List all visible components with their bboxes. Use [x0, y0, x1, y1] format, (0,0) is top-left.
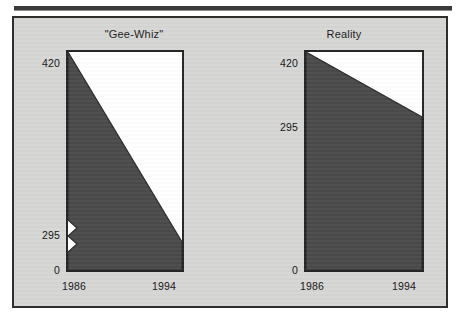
- panel-geewhiz-title: "Gee-Whiz": [14, 28, 232, 40]
- chart-reality-ytick-0: 0: [264, 264, 298, 276]
- panel-geewhiz: "Gee-Whiz" 420 295 0 1986 1994: [14, 18, 232, 306]
- chart-reality-ytick-295: 295: [264, 121, 298, 133]
- panel-reality-title: Reality: [232, 28, 450, 40]
- chart-geewhiz-area-shape: [68, 52, 182, 270]
- chart-reality-xtick-1994: 1994: [392, 280, 416, 292]
- chart-geewhiz-plot-area: [66, 50, 184, 272]
- chart-geewhiz-ytick-0: 0: [26, 264, 60, 276]
- chart-geewhiz-ytick-295: 295: [26, 229, 60, 241]
- top-horizontal-rule: [14, 6, 452, 10]
- figure-container: "Gee-Whiz" 420 295 0 1986 1994 Reality 4…: [12, 16, 448, 308]
- chart-reality-area-shape: [306, 52, 422, 270]
- chart-reality-plot-area: [304, 50, 424, 272]
- panel-reality: Reality 420 295 0 1986 1994: [232, 18, 450, 306]
- chart-reality-ytick-420: 420: [264, 57, 298, 69]
- chart-geewhiz-ytick-420: 420: [26, 57, 60, 69]
- chart-geewhiz-xtick-1994: 1994: [152, 280, 176, 292]
- chart-reality-xtick-1986: 1986: [300, 280, 324, 292]
- chart-geewhiz-xtick-1986: 1986: [62, 280, 86, 292]
